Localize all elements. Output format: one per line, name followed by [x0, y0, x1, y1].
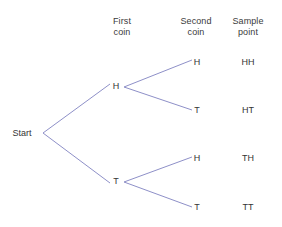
sample-point-hh: HH: [218, 57, 278, 67]
column-header-sample-point: Sample point: [208, 16, 282, 37]
edge-start-h: [43, 84, 110, 133]
header-line-1: Sample: [208, 16, 282, 27]
header-line-1: First: [82, 16, 162, 27]
column-header-first-coin: First coin: [82, 16, 162, 37]
sample-point-tt: TT: [218, 202, 278, 212]
sample-point-ht: HT: [218, 105, 278, 115]
sample-point-th: TH: [218, 153, 278, 163]
tree-diagram-canvas: First coin Second coin Sample point Star…: [0, 0, 282, 227]
node-first-coin-tails: T: [86, 176, 146, 186]
node-start: Start: [0, 128, 52, 138]
header-line-2: point: [208, 27, 282, 38]
node-first-coin-heads: H: [86, 81, 146, 91]
header-line-2: coin: [82, 27, 162, 38]
